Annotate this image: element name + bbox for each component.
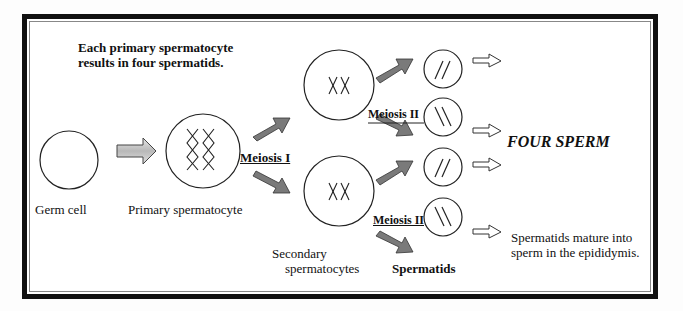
secondary-spermatocyte-top: [304, 50, 374, 120]
label-primary-spermatocyte: Primary spermatocyte: [128, 202, 242, 217]
label-mature-line2: sperm in the epididymis.: [511, 245, 640, 260]
arrow-meiosis1-up: [253, 118, 290, 141]
label-germ-cell: Germ cell: [35, 202, 87, 217]
outline-arrow-3: [473, 158, 501, 171]
label-meiosis-2-top: Meiosis II: [368, 107, 419, 122]
outline-arrow-1: [473, 54, 501, 67]
label-secondary-line2: spermatocytes: [285, 261, 359, 276]
label-meiosis-1: Meiosis I: [240, 150, 290, 165]
spermatid-3: [424, 148, 462, 186]
label-four-sperm: FOUR SPERM: [507, 134, 610, 149]
label-spermatids: Spermatids: [392, 261, 456, 276]
label-secondary-line1: Secondary: [272, 246, 327, 261]
spermatid-2: [424, 98, 462, 136]
label-mature-line1: Spermatids mature into: [511, 230, 632, 245]
outline-arrow-2: [473, 124, 501, 137]
arrow-meiosis2-bottom-down: [376, 231, 413, 253]
label-meiosis-2-bottom: Meiosis II: [373, 213, 424, 228]
primary-spermatocyte: [166, 114, 240, 188]
title-line-2: results in four spermatids.: [78, 55, 278, 70]
arrow-meiosis2-bottom-up: [376, 161, 413, 185]
spermatid-4: [424, 198, 462, 236]
outline-arrow-4: [473, 225, 501, 238]
arrow-germ-to-primary: [117, 138, 156, 164]
arrow-meiosis2-top-up: [376, 59, 413, 83]
spermatid-1: [424, 50, 462, 88]
arrow-meiosis1-down: [253, 171, 290, 193]
diagram-title: Each primary spermatocyteresults in four…: [78, 40, 278, 70]
secondary-spermatocyte-bottom: [304, 156, 374, 226]
germ-cell: [40, 131, 98, 189]
title-line-1: Each primary spermatocyte: [78, 40, 278, 55]
